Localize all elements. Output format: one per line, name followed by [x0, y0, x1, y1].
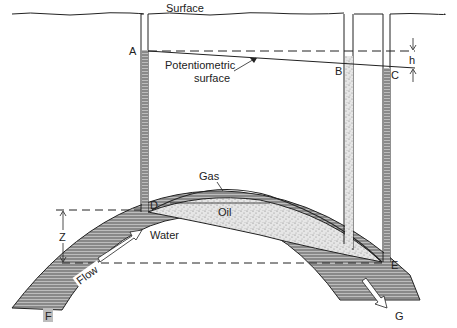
surface-label: Surface [166, 2, 204, 14]
point-f-label: F [45, 310, 52, 322]
oil-trap-diagram: Surface h Potentiometric surface [0, 0, 457, 328]
potentiometric-label-line2: surface [194, 72, 230, 84]
point-c-label: C [391, 69, 399, 81]
ground-surface [12, 13, 445, 15]
point-g-label: G [395, 310, 404, 322]
h-label: h [409, 54, 415, 66]
water-label: Water [150, 229, 179, 241]
point-d-label: D [150, 199, 158, 211]
potentiometric-label-line1: Potentiometric [165, 59, 236, 71]
well-b [344, 14, 353, 250]
point-e-label: E [391, 259, 398, 271]
point-a-label: A [129, 45, 137, 57]
point-b-label: B [335, 65, 342, 77]
gas-label: Gas [199, 170, 220, 182]
z-label: Z [59, 231, 66, 243]
well-a [141, 14, 148, 212]
oil-label: Oil [218, 206, 231, 218]
